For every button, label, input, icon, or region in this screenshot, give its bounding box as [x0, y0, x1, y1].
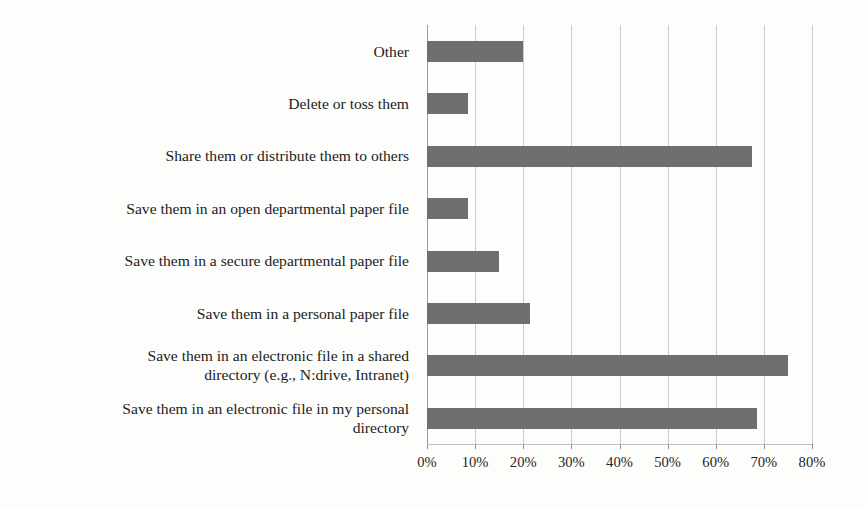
- bar[interactable]: [427, 93, 468, 114]
- category-label-cell: Delete or toss them: [0, 77, 409, 129]
- category-label: Other: [373, 42, 409, 61]
- bar-row: [427, 77, 812, 129]
- x-axis-baseline: [427, 444, 812, 445]
- tick-mark-80pct: [812, 444, 813, 449]
- category-label: Save them in a secure departmental paper…: [125, 251, 409, 270]
- x-tick-label: 80%: [799, 452, 826, 472]
- bar[interactable]: [427, 251, 499, 272]
- plot-area: [427, 25, 812, 444]
- x-tick-label: 70%: [750, 452, 777, 472]
- category-label: Save them in an open departmental paper …: [126, 199, 409, 218]
- x-tick-label: 10%: [462, 452, 489, 472]
- bar-row: [427, 287, 812, 339]
- category-label-cell: Save them in an electronic file in my pe…: [0, 392, 409, 444]
- category-label-cell: Save them in an open departmental paper …: [0, 182, 409, 234]
- bar-row: [427, 182, 812, 234]
- category-label-cell: Share them or distribute them to others: [0, 130, 409, 182]
- category-label-cell: Other: [0, 25, 409, 77]
- bar-row: [427, 392, 812, 444]
- bar[interactable]: [427, 146, 752, 167]
- x-tick-label: 40%: [606, 452, 633, 472]
- x-tick-label: 60%: [702, 452, 729, 472]
- x-tick-label: 30%: [558, 452, 585, 472]
- bar-row: [427, 25, 812, 77]
- category-label-cell: Save them in a personal paper file: [0, 287, 409, 339]
- category-label-cell: Save them in a secure departmental paper…: [0, 235, 409, 287]
- category-label: Save them in an electronic file in my pe…: [122, 399, 409, 437]
- bar-row: [427, 235, 812, 287]
- bar[interactable]: [427, 355, 788, 376]
- category-axis-labels: OtherDelete or toss themShare them or di…: [0, 25, 418, 444]
- category-label: Share them or distribute them to others: [166, 146, 409, 165]
- category-label-cell: Save them in an electronic file in a sha…: [0, 339, 409, 391]
- bar[interactable]: [427, 41, 523, 62]
- x-tick-label: 50%: [654, 452, 681, 472]
- gridline-80pct: [812, 25, 813, 444]
- category-label: Delete or toss them: [288, 94, 409, 113]
- x-tick-label: 20%: [510, 452, 537, 472]
- bar-row: [427, 130, 812, 182]
- bar[interactable]: [427, 408, 757, 429]
- category-label: Save them in an electronic file in a sha…: [147, 346, 409, 384]
- bar-chart-figure: OtherDelete or toss themShare them or di…: [0, 0, 865, 508]
- bar[interactable]: [427, 303, 530, 324]
- bar[interactable]: [427, 198, 468, 219]
- category-label: Save them in a personal paper file: [197, 304, 409, 323]
- x-axis-tick-labels: 0%10%20%30%40%50%60%70%80%: [427, 452, 812, 474]
- x-tick-label: 0%: [417, 452, 436, 472]
- bar-row: [427, 339, 812, 391]
